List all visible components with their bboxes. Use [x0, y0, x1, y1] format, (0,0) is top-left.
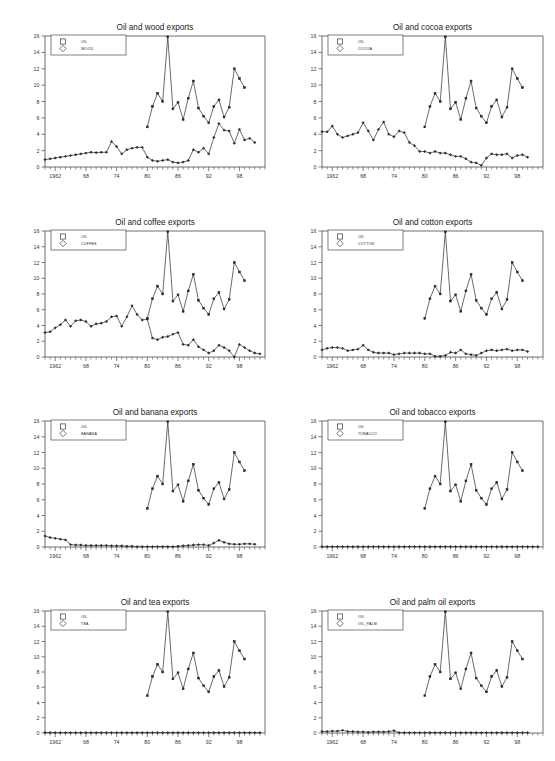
- y-axis-tick-label: 8: [314, 291, 317, 297]
- data-point-wood: [182, 161, 184, 163]
- y-axis-tick-label: 10: [34, 275, 40, 281]
- y-axis-tick-label: 0: [37, 730, 40, 736]
- y-axis-tick-label: 4: [37, 513, 40, 519]
- data-point-oil: [480, 685, 482, 687]
- data-point-oil: [239, 271, 241, 273]
- data-point-oil: [429, 676, 431, 678]
- data-point-oil_palm: [352, 730, 354, 732]
- data-point-oil: [192, 273, 194, 275]
- data-point-oil: [172, 678, 174, 680]
- data-point-oil: [172, 300, 174, 302]
- y-axis-tick-label: 8: [37, 481, 40, 487]
- data-point-oil: [218, 99, 220, 101]
- y-axis-tick-label: 0: [37, 164, 40, 170]
- data-point-tea: [259, 731, 261, 733]
- y-axis-tick-label: 6: [37, 497, 40, 503]
- x-axis-tick-label: 68: [83, 173, 89, 179]
- x-axis-tick-label: 80: [422, 173, 428, 179]
- y-axis-tick-label: 8: [314, 481, 317, 487]
- data-point-oil: [460, 119, 462, 121]
- data-point-wood: [131, 147, 133, 149]
- data-point-cotton: [403, 352, 405, 354]
- data-point-banana: [44, 535, 46, 537]
- data-point-coffee: [156, 338, 158, 340]
- data-point-oil: [208, 504, 210, 506]
- x-axis-tick-label: 74: [114, 553, 120, 559]
- data-point-tobacco: [357, 545, 359, 547]
- x-axis-tick-label: 92: [206, 739, 212, 745]
- data-point-wood: [136, 146, 138, 148]
- data-point-tea: [131, 731, 133, 733]
- data-point-tea: [80, 731, 82, 733]
- data-point-oil: [486, 504, 488, 506]
- data-point-oil: [228, 299, 230, 301]
- data-point-oil: [470, 80, 472, 82]
- x-axis-tick-label: 68: [360, 363, 366, 369]
- data-point-oil: [424, 695, 426, 697]
- data-point-cotton: [506, 348, 508, 350]
- data-point-tobacco: [439, 545, 441, 547]
- data-point-oil: [434, 285, 436, 287]
- y-axis-tick-label: 16: [34, 418, 40, 424]
- data-point-tobacco: [331, 545, 333, 547]
- data-point-tobacco: [382, 545, 384, 547]
- data-point-tea: [121, 731, 123, 733]
- x-axis-tick-label: 1962: [326, 363, 338, 369]
- data-point-cotton: [398, 353, 400, 355]
- data-point-cotton: [388, 352, 390, 354]
- y-axis-tick-label: 6: [314, 307, 317, 313]
- data-point-oil: [146, 695, 148, 697]
- y-axis-tick-label: 4: [37, 700, 40, 706]
- data-point-oil_palm: [393, 730, 395, 732]
- data-point-oil_palm: [341, 729, 343, 731]
- y-axis-tick-label: 2: [314, 715, 317, 721]
- data-point-cotton: [429, 353, 431, 355]
- y-axis-tick-label: 4: [314, 513, 317, 519]
- data-point-oil: [465, 668, 467, 670]
- data-point-tea: [44, 731, 46, 733]
- data-point-coffee: [80, 319, 82, 321]
- x-axis-tick-label: 80: [144, 553, 150, 559]
- x-axis-tick-label: 80: [144, 363, 150, 369]
- legend-label-oil: OIL: [358, 40, 364, 44]
- data-point-oil_palm: [434, 731, 436, 733]
- data-point-tobacco: [418, 545, 420, 547]
- data-point-tobacco: [496, 545, 498, 547]
- data-point-tobacco: [470, 545, 472, 547]
- data-point-coffee: [44, 331, 46, 333]
- data-point-oil_palm: [408, 731, 410, 733]
- series-line-oil: [425, 37, 523, 127]
- data-point-oil: [460, 310, 462, 312]
- data-point-oil: [187, 480, 189, 482]
- data-point-oil: [496, 99, 498, 101]
- data-point-oil: [203, 497, 205, 499]
- data-point-oil: [434, 663, 436, 665]
- data-point-oil_palm: [424, 731, 426, 733]
- legend-label-oil_palm: OIL_PALM: [358, 622, 377, 626]
- x-axis-tick-label: 86: [453, 739, 459, 745]
- data-point-cocoa: [352, 133, 354, 135]
- x-axis-tick-label: 80: [422, 363, 428, 369]
- data-point-coffee: [95, 323, 97, 325]
- data-point-oil: [424, 318, 426, 320]
- data-point-wood: [105, 151, 107, 153]
- data-point-oil_palm: [439, 731, 441, 733]
- data-point-cocoa: [429, 152, 431, 154]
- data-point-oil: [486, 122, 488, 124]
- data-point-oil: [192, 652, 194, 654]
- data-point-cotton: [331, 346, 333, 348]
- data-point-oil: [177, 484, 179, 486]
- data-point-banana: [243, 543, 245, 545]
- legend-label-oil: OIL: [358, 615, 364, 619]
- x-axis-tick-label: 86: [453, 363, 459, 369]
- chart-panel-oil-and-wood-exports: Oil and wood exports02468101214161962687…: [0, 0, 277, 195]
- data-point-oil: [475, 489, 477, 491]
- series-line-oil: [147, 37, 244, 127]
- data-point-oil: [506, 299, 508, 301]
- chart-title: Oil and coffee exports: [115, 218, 195, 227]
- y-axis-tick-label: 12: [311, 260, 317, 266]
- data-point-tea: [248, 731, 250, 733]
- data-point-oil: [198, 489, 200, 491]
- data-point-oil: [522, 280, 524, 282]
- data-point-cocoa: [388, 133, 390, 135]
